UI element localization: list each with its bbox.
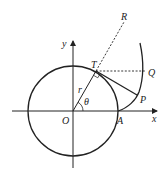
label-y: y [61,38,67,49]
label-theta: θ [84,96,89,107]
tangent-TP [96,71,137,95]
ray-TR [96,22,124,71]
label-P: P [139,94,146,105]
label-A: A [116,115,124,126]
angle-arc [78,102,83,111]
label-r: r [78,84,82,95]
label-O: O [62,115,69,126]
label-Q: Q [148,67,156,78]
label-T: T [91,59,98,70]
label-R: R [120,11,127,22]
involute-diagram: y x O A T R Q P r θ [0,0,166,177]
label-x: x [151,113,157,124]
